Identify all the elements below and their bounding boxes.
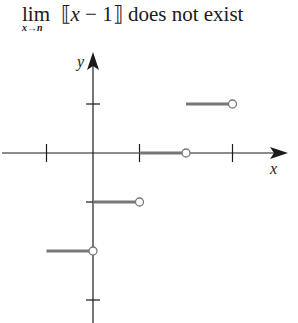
y-axis-label: y xyxy=(75,53,85,71)
step-function-plot: x y xyxy=(0,0,298,323)
axes: x y xyxy=(2,52,288,323)
open-circle-icon xyxy=(136,198,144,206)
open-circle-icon xyxy=(89,247,97,255)
open-circle-icon xyxy=(182,149,190,157)
open-circle-icon xyxy=(229,100,237,108)
x-axis-label: x xyxy=(269,160,277,177)
segments xyxy=(47,100,237,255)
